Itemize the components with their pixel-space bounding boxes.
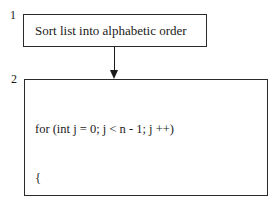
- arrow-connector: [114, 47, 115, 71]
- code-line-for: for (int j = 0; j < n - 1; j ++): [35, 121, 229, 137]
- step-2-box: for (int j = 0; j < n - 1; j ++) { int l…: [24, 79, 268, 196]
- code-line-open-brace: {: [35, 170, 229, 186]
- step-2-number: 2: [11, 73, 17, 85]
- arrow-down-icon: [110, 70, 118, 79]
- step-1-label: Sort list into alphabetic order: [35, 23, 187, 39]
- step-2-code: for (int j = 0; j < n - 1; j ++) { int l…: [35, 89, 229, 205]
- step-1-number: 1: [10, 9, 16, 21]
- step-1-box: Sort list into alphabetic order: [23, 14, 207, 47]
